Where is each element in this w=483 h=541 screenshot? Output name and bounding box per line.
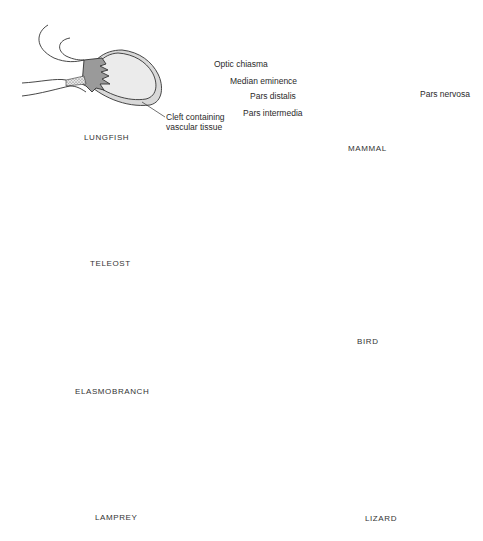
caption-mammal: MAMMAL xyxy=(348,144,387,153)
caption-lungfish: LUNGFISH xyxy=(84,133,129,142)
annotation-pars-nervosa: Pars nervosa xyxy=(420,89,470,99)
caption-lamprey: LAMPREY xyxy=(95,513,137,522)
annotation-median-eminence: Median eminence xyxy=(230,76,297,86)
annotation-pars-distalis: Pars distalis xyxy=(250,91,296,101)
annotation-cleft-line2: vascular tissue xyxy=(166,122,222,132)
pituitary-comparison-figure: Cleft containing vascular tissue LUNGFIS… xyxy=(0,0,483,541)
caption-bird: BIRD xyxy=(357,337,379,346)
annotation-cleft-line1: Cleft containing xyxy=(166,112,225,122)
lungfish-pituitary-drawing xyxy=(22,25,165,117)
caption-lizard: LIZARD xyxy=(365,514,397,523)
annotation-pars-intermedia: Pars intermedia xyxy=(243,108,303,118)
annotation-optic-chiasma: Optic chiasma xyxy=(214,59,268,69)
caption-elasmobranch: ELASMOBRANCH xyxy=(75,387,149,396)
caption-teleost: TELEOST xyxy=(90,259,131,268)
